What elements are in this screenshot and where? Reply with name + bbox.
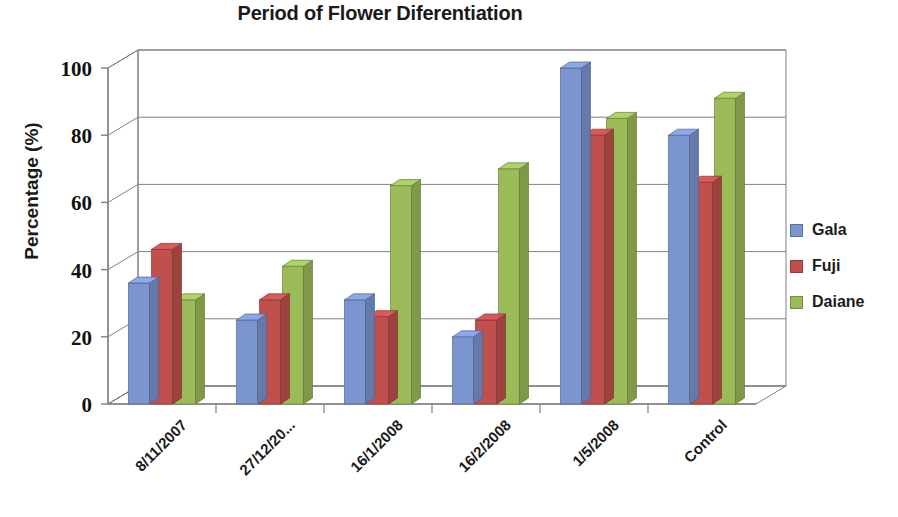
legend-swatch-icon	[790, 224, 803, 237]
bar-front-face	[129, 283, 150, 404]
gridline-depth-connector	[108, 184, 138, 202]
legend-label: Fuji	[812, 257, 840, 275]
bar-side-face	[304, 260, 313, 404]
bar-front-face	[345, 300, 366, 404]
y-axis-tick-label: 0	[82, 393, 93, 417]
bar-side-face	[389, 311, 398, 404]
gridline-depth-connector	[108, 117, 138, 135]
legend-swatch-icon	[790, 260, 803, 273]
x-axis-tick-label: 8/11/2007	[131, 416, 190, 475]
gridline-depth-connector	[108, 50, 138, 68]
x-axis-tick-label: 16/2/2008	[455, 416, 514, 475]
bar-front-face	[237, 320, 258, 404]
x-axis-tick-label: 16/1/2008	[347, 416, 406, 475]
bar-side-face	[150, 277, 159, 404]
legend-label: Daiane	[812, 293, 864, 311]
y-axis-tick-label: 100	[61, 57, 93, 81]
bar-side-face	[736, 92, 745, 404]
bar-side-face	[366, 294, 375, 404]
legend-item[interactable]: Daiane	[790, 284, 898, 320]
bar-side-face	[628, 112, 637, 404]
legend-swatch-icon	[790, 296, 803, 309]
bar-side-face	[497, 314, 506, 404]
chart-container: Period of Flower Diferentiation Percenta…	[0, 0, 898, 517]
bar-front-face	[453, 337, 474, 404]
bar-gala-5	[669, 129, 699, 404]
y-axis-tick-label: 20	[71, 326, 92, 350]
bar-gala-0	[129, 277, 159, 404]
legend-item[interactable]: Gala	[790, 212, 898, 248]
bar-gala-1	[237, 314, 267, 404]
y-axis-tick-label: 40	[71, 259, 92, 283]
bar-front-face	[561, 68, 582, 404]
gridline-depth-connector	[108, 252, 138, 270]
bar-side-face	[258, 314, 267, 404]
legend-label: Gala	[812, 221, 847, 239]
bar-side-face	[520, 163, 529, 404]
x-axis-tick-label: 27/12/20...	[236, 416, 298, 478]
legend-item[interactable]: Fuji	[790, 248, 898, 284]
x-axis-tick-label: 1/5/2008	[569, 416, 622, 469]
bar-side-face	[474, 331, 483, 404]
y-axis-tick-label: 60	[71, 191, 92, 215]
bar-gala-4	[561, 62, 591, 404]
bar-side-face	[281, 294, 290, 404]
plot-area: 0204060801008/11/200727/12/20...16/1/200…	[0, 0, 898, 517]
bar-side-face	[173, 243, 182, 404]
bar-side-face	[690, 129, 699, 404]
bar-gala-3	[453, 331, 483, 404]
chart-legend: GalaFujiDaiane	[790, 212, 898, 320]
bar-side-face	[582, 62, 591, 404]
bar-front-face	[669, 135, 690, 404]
bar-side-face	[713, 176, 722, 404]
bar-side-face	[412, 180, 421, 404]
bar-side-face	[605, 129, 614, 404]
x-axis-tick-label: Control	[680, 416, 730, 466]
y-axis-tick-label: 80	[71, 124, 92, 148]
bar-gala-2	[345, 294, 375, 404]
bar-side-face	[196, 294, 205, 404]
